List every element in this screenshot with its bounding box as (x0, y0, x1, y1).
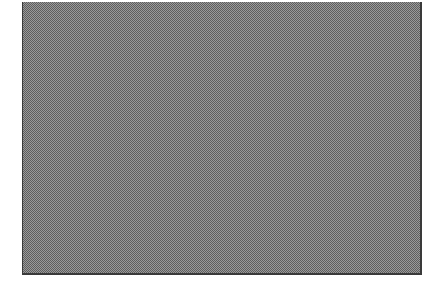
dithered-gray-panel (22, 2, 422, 275)
